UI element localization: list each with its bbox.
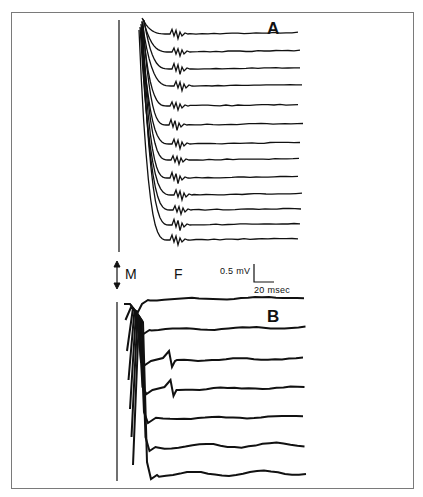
- f-wave-label: F: [174, 266, 183, 282]
- panel-a-trace: [141, 24, 300, 149]
- panel-a-trace: [140, 27, 302, 200]
- panel-a-trace: [142, 29, 300, 231]
- scale-amplitude-label: 0.5 mV: [220, 266, 250, 276]
- panel-a-label: A: [267, 19, 279, 39]
- panel-b-trace: [133, 316, 306, 479]
- m-wave-label: M: [125, 266, 137, 282]
- scale-bar: [254, 264, 274, 282]
- panel-a-trace: [143, 23, 303, 130]
- panel-a-trace: [139, 30, 298, 245]
- panel-a-traces: [139, 18, 303, 245]
- scale-time-label: 20 msec: [254, 285, 290, 295]
- panel-b-trace: [132, 314, 305, 451]
- m-double-arrow-icon: [114, 261, 120, 289]
- emg-traces: [0, 0, 423, 497]
- panel-a-trace: [141, 28, 301, 214]
- panel-b-label: B: [267, 307, 279, 327]
